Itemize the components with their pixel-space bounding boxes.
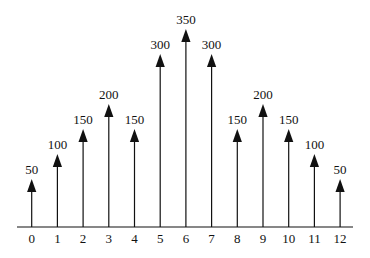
x-tick-label: 12: [334, 231, 347, 246]
x-tick-label: 11: [308, 231, 321, 246]
up-arrowhead-icon: [258, 104, 267, 117]
stem-value-label: 300: [202, 37, 222, 52]
x-tick-label: 6: [183, 231, 190, 246]
stem-value-label: 150: [73, 112, 93, 127]
stem-value-label: 50: [334, 162, 347, 177]
x-tick-label: 8: [234, 231, 241, 246]
x-tick-label: 4: [131, 231, 138, 246]
stem-value-label: 50: [25, 162, 38, 177]
stem-value-label: 200: [253, 87, 273, 102]
x-tick-label: 5: [157, 231, 164, 246]
stem-value-label: 150: [125, 112, 145, 127]
stem-plot-svg: 5001001150220031504300535063007150820091…: [0, 0, 370, 258]
stem-value-label: 300: [150, 37, 170, 52]
x-tick-label: 3: [106, 231, 113, 246]
stem-plot-figure: 5001001150220031504300535063007150820091…: [0, 0, 370, 258]
x-tick-label: 10: [282, 231, 295, 246]
up-arrowhead-icon: [284, 129, 293, 142]
x-tick-label: 7: [208, 231, 215, 246]
up-arrowhead-icon: [27, 179, 36, 192]
up-arrowhead-icon: [336, 179, 345, 192]
stem-value-label: 100: [48, 137, 68, 152]
x-tick-label: 2: [80, 231, 87, 246]
up-arrowhead-icon: [233, 129, 242, 142]
stem-value-label: 150: [279, 112, 299, 127]
stem-value-label: 100: [305, 137, 325, 152]
stem-value-label: 200: [99, 87, 119, 102]
stem-value-label: 350: [176, 12, 196, 27]
stem-value-label: 150: [228, 112, 248, 127]
x-tick-label: 0: [28, 231, 35, 246]
x-tick-label: 9: [260, 231, 267, 246]
up-arrowhead-icon: [53, 154, 62, 167]
up-arrowhead-icon: [207, 54, 216, 67]
up-arrowhead-icon: [130, 129, 139, 142]
up-arrowhead-icon: [104, 104, 113, 117]
x-tick-label: 1: [54, 231, 61, 246]
up-arrowhead-icon: [310, 154, 319, 167]
up-arrowhead-icon: [79, 129, 88, 142]
up-arrowhead-icon: [181, 29, 190, 42]
up-arrowhead-icon: [156, 54, 165, 67]
